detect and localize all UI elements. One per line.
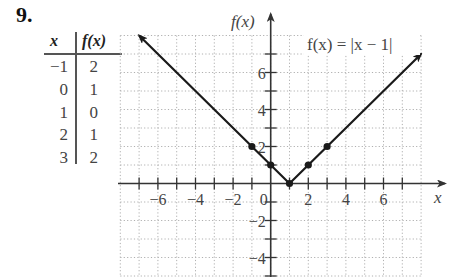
x-axis-label: x [433,188,442,207]
graph: −6−4−2246−4−22460 f(x) x f(x) = |x − 1| [0,0,458,277]
x-tick-label: −4 [187,191,204,208]
x-tick-label: 4 [342,191,350,208]
y-tick-label: −4 [249,250,266,267]
y-axis-label: f(x) [231,12,255,31]
data-point [248,143,255,150]
origin-label: 0 [260,191,268,208]
data-point [286,180,293,187]
y-tick-label: 4 [258,102,266,119]
data-point [324,143,331,150]
x-tick-label: 2 [304,191,312,208]
x-tick-label: −6 [149,191,166,208]
equation-label: f(x) = |x − 1| [307,35,392,54]
data-point [267,161,274,168]
y-tick-label: 6 [258,65,266,82]
y-tick-label: −2 [249,213,266,230]
x-tick-label: 6 [380,191,388,208]
x-tick-label: −2 [225,191,242,208]
data-point [305,161,312,168]
